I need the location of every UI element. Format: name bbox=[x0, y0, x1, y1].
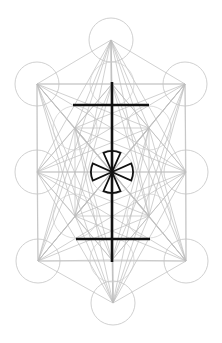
guide-line bbox=[38, 261, 113, 303]
guide-line bbox=[113, 261, 186, 303]
guide-line bbox=[113, 128, 149, 303]
guide-line bbox=[75, 172, 112, 216]
guide-line bbox=[37, 40, 111, 84]
guide-line bbox=[149, 128, 186, 172]
guide-line bbox=[149, 216, 186, 261]
metatrons-cube-diagram bbox=[0, 0, 222, 343]
guide-line bbox=[111, 40, 185, 84]
guide-line bbox=[111, 40, 186, 261]
guide-line bbox=[75, 128, 113, 303]
guide-line bbox=[149, 84, 185, 216]
guide-line bbox=[38, 216, 75, 261]
guide-line bbox=[112, 172, 149, 216]
